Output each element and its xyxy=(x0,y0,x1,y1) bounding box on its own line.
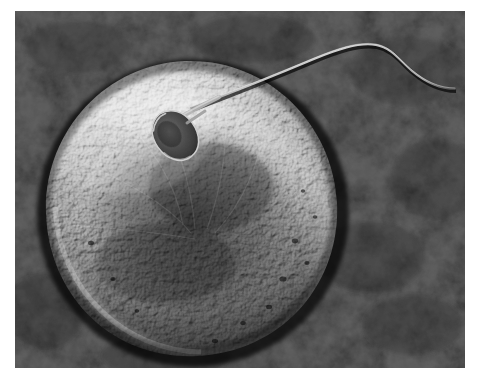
sem-micrograph-image: Ovum (egg cell) Sperm head Sperm flagell… xyxy=(15,11,465,368)
screenshot-canvas: Ovum (egg cell) Sperm head Sperm flagell… xyxy=(0,0,479,381)
film-grain-overlay xyxy=(15,11,465,368)
micrograph-vector-scene xyxy=(15,11,465,368)
micrograph-content xyxy=(15,11,465,368)
